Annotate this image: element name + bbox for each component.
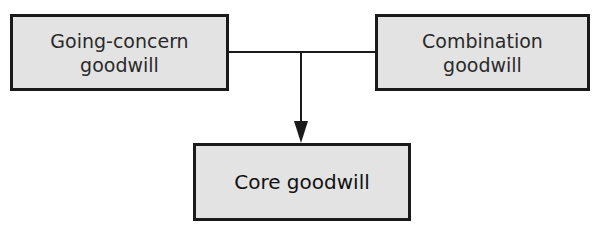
- arrowhead-down-icon: [294, 121, 308, 143]
- core-goodwill-box: Core goodwill: [193, 143, 411, 221]
- box-label-line2: goodwill: [422, 53, 543, 77]
- box-label-line1: Combination: [422, 29, 543, 53]
- going-concern-goodwill-box: Going-concern goodwill: [10, 14, 229, 91]
- box-label-line2: goodwill: [50, 53, 188, 77]
- combination-goodwill-box: Combination goodwill: [375, 14, 590, 91]
- box-label-line1: Going-concern: [50, 29, 188, 53]
- box-label: Core goodwill: [234, 170, 370, 194]
